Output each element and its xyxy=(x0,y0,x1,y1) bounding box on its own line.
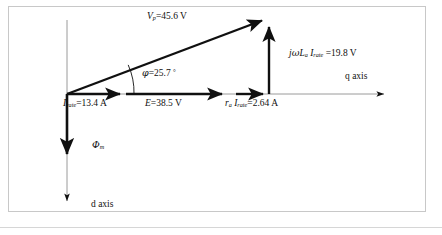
label-reactance-drop: jωLa Irate =19.8 V xyxy=(289,48,357,59)
label-flux: Φm xyxy=(92,140,104,151)
bottom-divider xyxy=(0,227,442,228)
label-q-axis: q axis xyxy=(345,72,367,82)
label-terminal-voltage: Vp=45.6 V xyxy=(147,12,187,22)
label-resistance-drop: ra Irate=2.64 A xyxy=(225,99,278,109)
ra-subscript: a xyxy=(229,101,232,108)
rair-value: =2.64 A xyxy=(247,98,278,108)
label-rated-current: Irate=13.4 A xyxy=(63,99,107,109)
label-d-axis: d axis xyxy=(91,200,113,210)
current-subscript: rate xyxy=(313,51,323,58)
flux-subscript: m xyxy=(100,143,104,150)
label-back-emf: E=38.5 V xyxy=(145,99,182,109)
e-value: =38.5 V xyxy=(151,98,182,108)
vp-vector xyxy=(67,21,262,95)
degree-icon: ° xyxy=(173,68,176,76)
phasor-vector-graphics xyxy=(0,0,442,235)
flux-symbol: Φ xyxy=(92,139,100,150)
inductance-subscript: a xyxy=(305,51,308,58)
vp-value: =45.6 V xyxy=(156,11,187,21)
phasor-diagram-figure: Vp=45.6 V jωLa Irate =19.8 V φ=25.7 ° q … xyxy=(0,0,442,235)
irate-value: =13.4 A xyxy=(76,98,107,108)
rair-current-subscript: rate xyxy=(237,101,247,108)
label-power-factor-angle: φ=25.7 ° xyxy=(142,68,176,79)
irate-subscript: rate xyxy=(66,101,76,108)
phi-value: =25.7 xyxy=(149,68,171,78)
phi-symbol: φ xyxy=(142,67,149,78)
reactance-value: =19.8 V xyxy=(326,48,357,58)
